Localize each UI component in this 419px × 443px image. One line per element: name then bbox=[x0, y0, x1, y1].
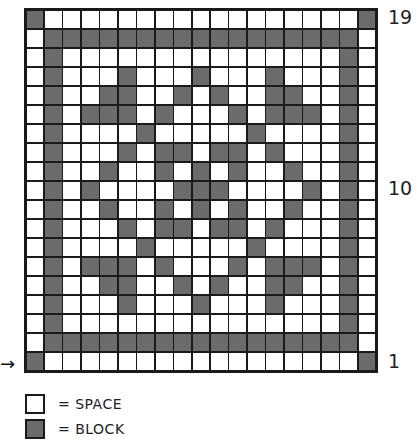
space-cell bbox=[193, 277, 210, 294]
space-cell bbox=[248, 201, 265, 218]
block-cell bbox=[174, 277, 191, 294]
space-cell bbox=[63, 239, 80, 256]
space-cell bbox=[303, 315, 320, 332]
space-cell bbox=[100, 296, 117, 313]
block-cell bbox=[340, 277, 357, 294]
block-cell bbox=[100, 258, 117, 275]
space-cell bbox=[303, 277, 320, 294]
space-cell bbox=[322, 106, 339, 123]
space-cell bbox=[119, 163, 136, 180]
space-cell bbox=[359, 144, 376, 161]
block-cell bbox=[137, 125, 154, 142]
block-cell bbox=[45, 68, 62, 85]
block-cell bbox=[211, 220, 228, 237]
space-cell bbox=[63, 144, 80, 161]
space-cell bbox=[100, 182, 117, 199]
space-cell bbox=[322, 87, 339, 104]
row-label-19: 19 bbox=[388, 8, 412, 27]
space-cell bbox=[82, 239, 99, 256]
space-cell bbox=[63, 353, 80, 370]
space-cell bbox=[137, 49, 154, 66]
space-cell bbox=[27, 201, 44, 218]
space-cell bbox=[285, 144, 302, 161]
space-cell bbox=[193, 353, 210, 370]
space-cell bbox=[174, 315, 191, 332]
space-cell bbox=[229, 125, 246, 142]
space-cell bbox=[359, 220, 376, 237]
space-cell bbox=[137, 315, 154, 332]
space-cell bbox=[285, 182, 302, 199]
block-cell bbox=[340, 106, 357, 123]
block-cell bbox=[156, 258, 173, 275]
block-cell bbox=[303, 182, 320, 199]
block-cell bbox=[211, 30, 228, 47]
space-cell bbox=[266, 125, 283, 142]
space-cell bbox=[27, 125, 44, 142]
block-cell bbox=[156, 220, 173, 237]
block-cell bbox=[82, 182, 99, 199]
block-cell bbox=[285, 163, 302, 180]
space-cell bbox=[359, 277, 376, 294]
block-cell bbox=[63, 30, 80, 47]
block-cell bbox=[100, 163, 117, 180]
space-cell bbox=[359, 334, 376, 351]
space-cell bbox=[27, 30, 44, 47]
space-cell bbox=[82, 68, 99, 85]
block-cell bbox=[45, 334, 62, 351]
space-cell bbox=[266, 49, 283, 66]
space-cell bbox=[156, 353, 173, 370]
space-cell bbox=[63, 315, 80, 332]
space-cell bbox=[266, 353, 283, 370]
space-cell bbox=[27, 182, 44, 199]
block-cell bbox=[119, 106, 136, 123]
block-cell bbox=[248, 125, 265, 142]
space-cell bbox=[137, 277, 154, 294]
block-cell bbox=[211, 334, 228, 351]
space-cell bbox=[82, 144, 99, 161]
space-cell bbox=[322, 49, 339, 66]
block-cell bbox=[340, 68, 357, 85]
block-cell bbox=[266, 30, 283, 47]
block-cell bbox=[82, 258, 99, 275]
space-cell bbox=[174, 239, 191, 256]
space-cell bbox=[174, 353, 191, 370]
block-cell bbox=[174, 144, 191, 161]
space-cell bbox=[174, 68, 191, 85]
filet-crochet-chart-grid bbox=[24, 8, 378, 373]
space-cell bbox=[266, 182, 283, 199]
block-cell bbox=[229, 220, 246, 237]
space-cell bbox=[229, 353, 246, 370]
space-cell bbox=[285, 353, 302, 370]
block-cell bbox=[266, 258, 283, 275]
space-cell bbox=[229, 87, 246, 104]
space-cell bbox=[82, 220, 99, 237]
block-cell bbox=[174, 334, 191, 351]
space-cell bbox=[248, 163, 265, 180]
space-cell bbox=[359, 239, 376, 256]
space-cell bbox=[193, 315, 210, 332]
block-cell bbox=[119, 144, 136, 161]
space-cell bbox=[137, 144, 154, 161]
space-cell bbox=[137, 220, 154, 237]
space-cell bbox=[63, 68, 80, 85]
block-cell bbox=[266, 296, 283, 313]
space-cell bbox=[303, 220, 320, 237]
space-cell bbox=[229, 182, 246, 199]
space-cell bbox=[137, 68, 154, 85]
block-cell bbox=[266, 106, 283, 123]
space-cell bbox=[82, 353, 99, 370]
space-cell bbox=[119, 201, 136, 218]
space-cell bbox=[137, 11, 154, 28]
space-cell bbox=[156, 125, 173, 142]
block-cell bbox=[193, 201, 210, 218]
space-cell bbox=[303, 353, 320, 370]
space-cell bbox=[45, 353, 62, 370]
space-cell bbox=[322, 11, 339, 28]
space-cell bbox=[211, 49, 228, 66]
space-cell bbox=[359, 49, 376, 66]
block-cell bbox=[303, 334, 320, 351]
space-cell bbox=[322, 353, 339, 370]
space-cell bbox=[229, 68, 246, 85]
block-cell bbox=[193, 182, 210, 199]
space-cell bbox=[303, 125, 320, 142]
